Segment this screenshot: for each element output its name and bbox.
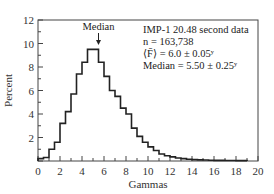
y-tick-label: 2	[29, 132, 35, 144]
info-dataset: IMP-1 20.48 second data	[143, 24, 249, 35]
x-tick-label: 10	[143, 165, 155, 177]
x-tick-label: 20	[253, 165, 265, 177]
info-count: n = 163,738	[143, 36, 194, 47]
x-tick-label: 4	[79, 165, 85, 177]
x-tick-label: 18	[231, 165, 243, 177]
x-axis-label: Gammas	[128, 178, 167, 190]
y-axis-label: Percent	[2, 74, 14, 107]
x-tick-label: 8	[123, 165, 129, 177]
x-tick-label: 0	[35, 165, 41, 177]
info-mean: ⟨F̄⟩ = 6.0 ± 0.05ʸ	[143, 48, 215, 59]
chart-svg: 0246810121416182024681012GammasPercentMe…	[0, 0, 274, 194]
info-median: Median = 5.50 ± 0.25ʸ	[143, 60, 238, 71]
histogram-chart: 0246810121416182024681012GammasPercentMe…	[0, 0, 274, 194]
y-tick-label: 12	[23, 14, 34, 26]
x-tick-label: 12	[165, 165, 176, 177]
y-tick-label: 4	[29, 108, 35, 120]
y-tick-label: 8	[29, 61, 35, 73]
y-tick-label: 10	[23, 38, 35, 50]
x-tick-label: 14	[187, 165, 199, 177]
median-arrow-icon	[96, 40, 101, 45]
x-tick-label: 16	[209, 165, 221, 177]
y-tick-label: 6	[29, 85, 35, 97]
x-tick-label: 2	[57, 165, 63, 177]
median-label: Median	[82, 21, 115, 32]
x-tick-label: 6	[101, 165, 107, 177]
